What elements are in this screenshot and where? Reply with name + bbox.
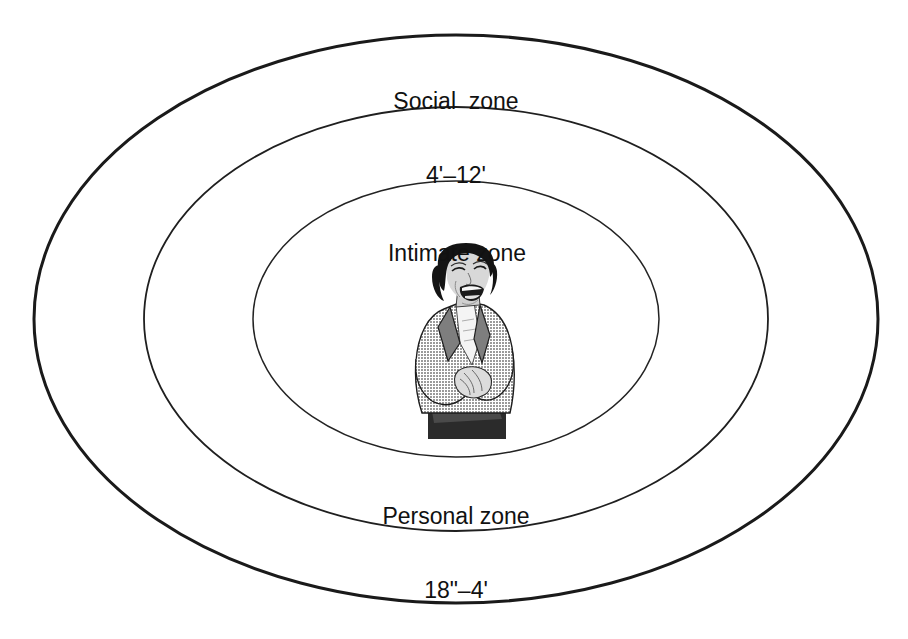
social-zone-range: 4'–12' xyxy=(256,164,656,187)
proxemic-zones-diagram: Social zone 4'–12' Intimate zone Persona… xyxy=(0,0,908,639)
intimate-zone-name: Intimate zone xyxy=(257,242,657,265)
figure-body-group xyxy=(415,301,514,439)
personal-zone-range: 18"–4' xyxy=(256,579,656,602)
personal-zone-label: Personal zone 18"–4' xyxy=(256,459,656,639)
social-zone-name: Social zone xyxy=(256,90,656,113)
intimate-zone-label: Intimate zone xyxy=(257,196,657,311)
personal-zone-name: Personal zone xyxy=(256,505,656,528)
